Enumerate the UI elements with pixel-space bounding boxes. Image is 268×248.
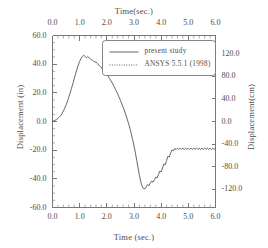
legend-box <box>103 41 216 76</box>
xtick-label-top-0: 0.0 <box>39 18 67 27</box>
ytick-label-left-2: 20.0 <box>13 88 47 97</box>
chart-figure: Time(sec.) Time (sec.) Displacement (in)… <box>0 0 268 248</box>
xtick-label-bottom-4: 4.0 <box>147 212 175 221</box>
ytick-label-left-5: -40.0 <box>13 174 47 183</box>
xtick-label-bottom-3: 3.0 <box>120 212 148 221</box>
xtick-label-bottom-6: 6.0 <box>202 212 230 221</box>
xtick-label-top-2: 2.0 <box>93 18 121 27</box>
ytick-label-right-2: 40.0 <box>222 94 256 103</box>
ytick-label-right-1: 80.0 <box>222 71 256 80</box>
xtick-label-bottom-5: 5.0 <box>174 212 202 221</box>
ytick-label-right-3: 0.0 <box>222 117 256 126</box>
xtick-label-bottom-2: 2.0 <box>93 212 121 221</box>
legend-label-1: ANSYS 5.5.1 (1998) <box>145 60 211 68</box>
xtick-label-bottom-1: 1.0 <box>66 212 94 221</box>
ytick-label-right-0: 120.0 <box>222 49 256 58</box>
xtick-label-top-6: 6.0 <box>202 18 230 27</box>
xtick-label-top-4: 4.0 <box>147 18 175 27</box>
top-axis-title: Time(sec.) <box>0 6 268 16</box>
ytick-label-left-1: 40.0 <box>13 59 47 68</box>
xtick-label-bottom-0: 0.0 <box>39 212 67 221</box>
xtick-label-top-5: 5.0 <box>174 18 202 27</box>
legend-label-0: present study <box>145 47 187 55</box>
ytick-label-left-4: -20.0 <box>13 145 47 154</box>
ytick-label-left-6: -60.0 <box>13 203 47 212</box>
ytick-label-left-0: 60.0 <box>13 31 47 40</box>
ytick-label-right-6: -120.0 <box>222 184 256 193</box>
xtick-label-top-3: 3.0 <box>120 18 148 27</box>
ytick-label-left-3: 0.0 <box>13 117 47 126</box>
xtick-label-top-1: 1.0 <box>66 18 94 27</box>
ytick-label-right-4: -40.0 <box>222 139 256 148</box>
bottom-axis-title: Time (sec.) <box>0 232 268 242</box>
ytick-label-right-5: -80.0 <box>222 162 256 171</box>
